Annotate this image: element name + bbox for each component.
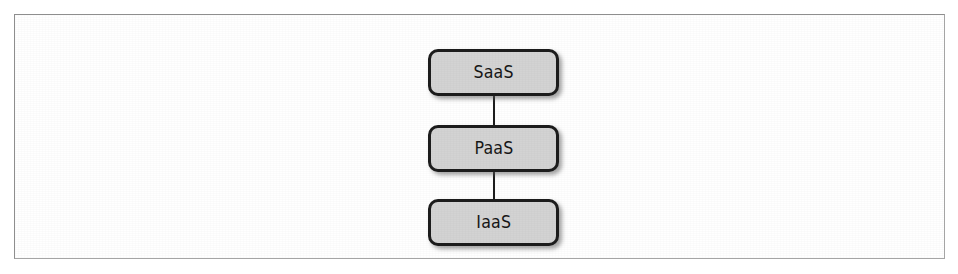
diagram-node-iaas-label: IaaS (476, 214, 511, 231)
diagram-node-saas-label: SaaS (473, 64, 513, 81)
diagram-edge-saas-paas (493, 93, 495, 129)
diagram-node-paas: PaaS (428, 125, 559, 172)
figure-frame: SaaS PaaS IaaS (14, 14, 945, 259)
diagram-node-iaas: IaaS (428, 199, 559, 246)
diagram-node-paas-label: PaaS (474, 140, 513, 157)
service-model-stack-diagram: SaaS PaaS IaaS (414, 35, 574, 255)
diagram-edge-paas-iaas (493, 167, 495, 203)
diagram-node-saas: SaaS (428, 49, 559, 96)
